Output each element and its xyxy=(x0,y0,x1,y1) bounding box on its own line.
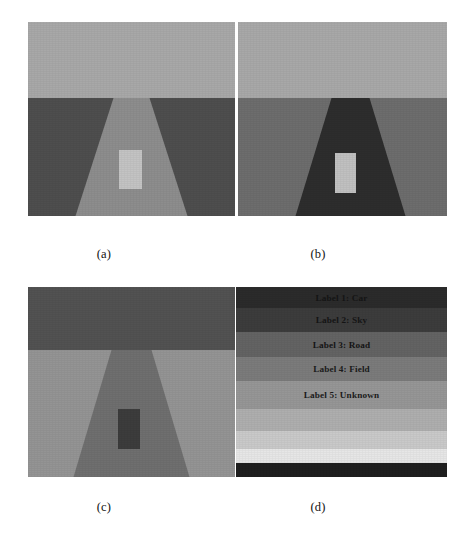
caption-b: (b) xyxy=(298,247,338,262)
legend-label-3: Label 3: Road xyxy=(313,340,371,350)
panel-c-scene xyxy=(28,287,235,477)
legend-band-7 xyxy=(236,431,447,449)
scene-layers-a xyxy=(28,22,235,216)
legend-band-4: Label 4: Field xyxy=(236,357,447,381)
legend-band-6 xyxy=(236,409,447,431)
caption-c: (c) xyxy=(84,500,124,515)
figure-root: Label 1: CarLabel 2: SkyLabel 3: RoadLab… xyxy=(0,0,475,543)
sky-region-b xyxy=(238,22,447,98)
sky-region-a xyxy=(28,22,235,98)
legend-band-2: Label 2: Sky xyxy=(236,308,447,332)
scene-layers-c xyxy=(28,287,235,477)
car-region-b xyxy=(335,153,356,193)
panel-a-scene xyxy=(28,22,235,216)
panel-b-scene xyxy=(238,22,447,216)
legend-band-8 xyxy=(236,449,447,463)
caption-d: (d) xyxy=(298,500,338,515)
legend-label-2: Label 2: Sky xyxy=(316,315,367,325)
caption-a: (a) xyxy=(84,247,124,262)
legend-band-stack: Label 1: CarLabel 2: SkyLabel 3: RoadLab… xyxy=(236,287,447,477)
sky-region-c xyxy=(28,287,235,350)
legend-band-5: Label 5: Unknown xyxy=(236,381,447,409)
car-region-c xyxy=(118,409,140,449)
legend-label-5: Label 5: Unknown xyxy=(304,390,379,400)
legend-label-4: Label 4: Field xyxy=(313,364,370,374)
car-region-a xyxy=(119,150,142,189)
legend-label-1: Label 1: Car xyxy=(316,293,368,303)
scene-layers-b xyxy=(238,22,447,216)
legend-band-1: Label 1: Car xyxy=(236,287,447,308)
legend-band-9 xyxy=(236,463,447,477)
legend-band-3: Label 3: Road xyxy=(236,332,447,357)
panel-d-legend: Label 1: CarLabel 2: SkyLabel 3: RoadLab… xyxy=(236,287,447,477)
